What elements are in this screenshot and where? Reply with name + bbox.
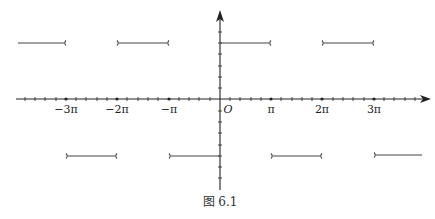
tick-label-pi: π — [267, 103, 274, 116]
upper-segments — [18, 41, 374, 46]
tick-label-neg-2pi: −2π — [105, 103, 128, 116]
tick-label-neg-pi: −π — [161, 103, 177, 116]
origin-label: O — [223, 103, 232, 116]
lower-segments — [66, 153, 422, 159]
tick-label-neg-3pi: −3π — [54, 103, 77, 116]
step-function-plot: −3π −2π −π π 2π 3π O 图 6.1 — [0, 0, 435, 219]
figure-caption: 图 6.1 — [203, 195, 238, 209]
tick-label-2pi: 2π — [315, 103, 329, 116]
tick-label-3pi: 3π — [367, 103, 381, 116]
